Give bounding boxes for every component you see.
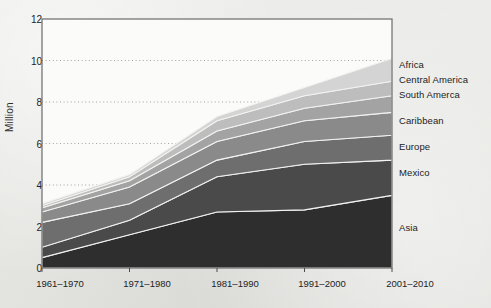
x-tick-marks — [42, 268, 392, 272]
legend-label-europe: Europe — [399, 141, 430, 152]
stacked-area-chart: Million 12 10 8 6 4 2 0 1961–1970 1971–1… — [0, 0, 491, 308]
legend-label-mexico: Mexico — [399, 167, 430, 178]
legend-label-africa: Africa — [399, 59, 424, 70]
legend-label-asia: Asia — [399, 222, 418, 233]
legend-label-central-america: Central America — [399, 74, 468, 85]
legend-label-south-america: South Amerca — [399, 89, 460, 100]
legend-label-caribbean: Caribbean — [399, 115, 444, 126]
x-tick-2001-2010: 2001–2010 — [355, 278, 465, 289]
chart-canvas — [0, 0, 491, 308]
